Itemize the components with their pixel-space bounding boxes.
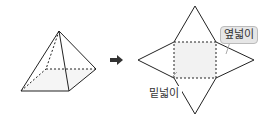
diagram-canvas bbox=[0, 0, 274, 120]
arrow-right-icon bbox=[110, 55, 123, 65]
base-area-label: 밑넓이 bbox=[146, 86, 182, 102]
lateral-area-label: 옆넓이 bbox=[220, 26, 258, 44]
square-pyramid bbox=[21, 31, 96, 91]
